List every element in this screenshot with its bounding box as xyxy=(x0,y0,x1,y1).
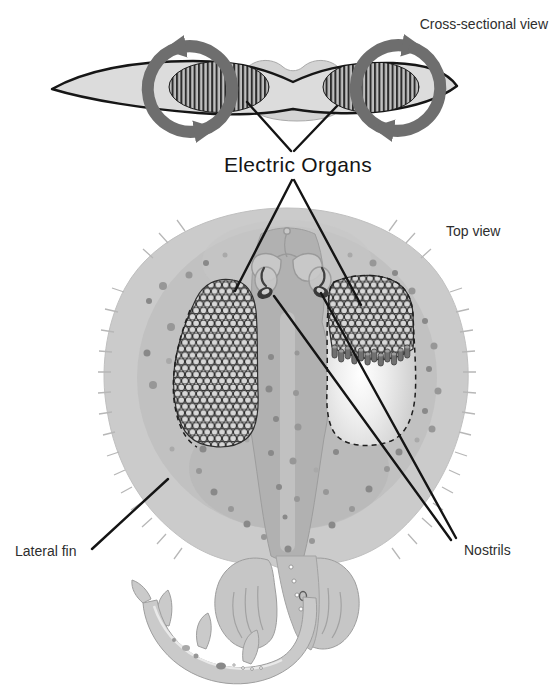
top-view xyxy=(98,208,476,684)
pelvic-fin-left xyxy=(215,558,277,649)
cross-sectional-view xyxy=(52,45,457,132)
label-electric-organs: Electric Organs xyxy=(224,153,372,176)
electric-organ-right-cross-section xyxy=(323,62,419,113)
label-cross-sectional-view: Cross-sectional view xyxy=(420,16,549,32)
label-nostrils: Nostrils xyxy=(464,542,511,558)
tail-tip-flag xyxy=(132,580,151,603)
label-top-view: Top view xyxy=(446,223,501,239)
label-lateral-fin: Lateral fin xyxy=(15,543,76,559)
electric-ray-diagram: Cross-sectional view Electric Organs Top… xyxy=(0,0,554,690)
electric-organ-left-cross-section xyxy=(169,62,269,113)
organ-honeycomb-top xyxy=(328,275,414,359)
vertebral-stripe xyxy=(280,312,295,552)
tail-finlet-2 xyxy=(196,613,211,649)
electric-organ-right-top-view xyxy=(327,275,416,445)
figure-canvas: Cross-sectional view Electric Organs Top… xyxy=(0,0,554,690)
